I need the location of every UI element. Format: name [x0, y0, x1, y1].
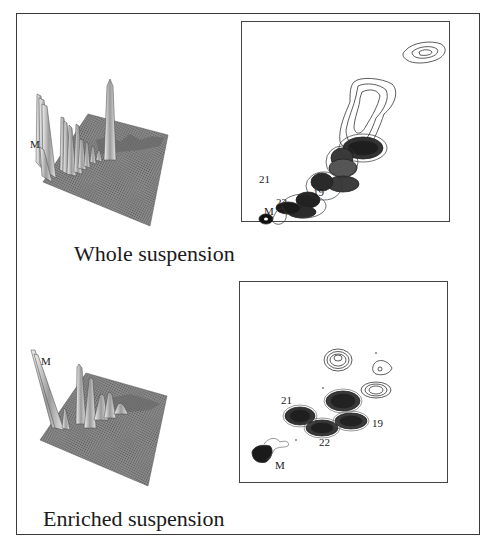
- spot-label-22: 22: [319, 437, 330, 448]
- contour-map: [240, 282, 449, 484]
- spot-label-21: 21: [281, 395, 292, 406]
- surface-peak-label-m: M: [41, 356, 51, 367]
- contour-plot-enriched: 21 19 22 M: [239, 281, 448, 483]
- spot-label-19: 19: [372, 418, 383, 429]
- caption-enriched-suspension: Enriched suspension: [43, 508, 224, 530]
- spot-label-m: M: [275, 460, 285, 471]
